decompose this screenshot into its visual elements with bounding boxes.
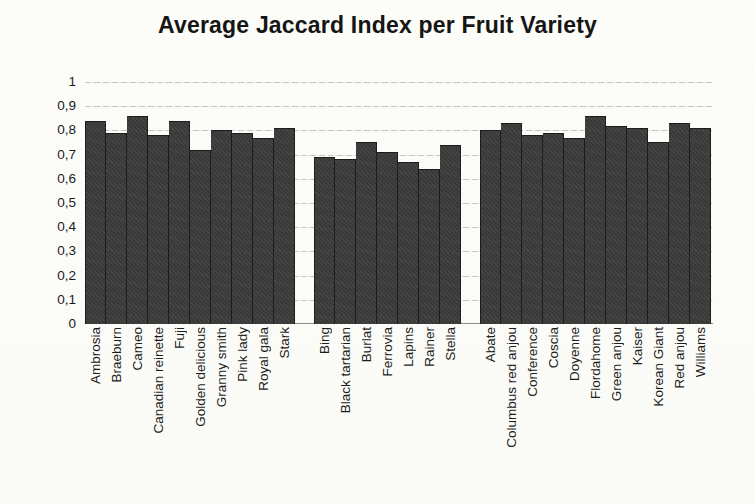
bar bbox=[85, 121, 106, 324]
bar-group bbox=[480, 116, 711, 324]
bar bbox=[232, 133, 253, 324]
bar bbox=[274, 128, 295, 324]
y-tick-label: 0,9 bbox=[16, 98, 76, 114]
x-tick-label: Cameo bbox=[127, 327, 148, 479]
x-tick-label: Lapins bbox=[398, 327, 419, 479]
x-tick-label: Bing bbox=[314, 327, 335, 479]
y-tick-label: 1 bbox=[16, 74, 76, 90]
x-tick-label: Coscia bbox=[543, 327, 564, 479]
x-tick-label: Granny smith bbox=[211, 327, 232, 479]
x-axis-labels: AmbrosiaBraeburnCameoCanadian reinetteFu… bbox=[85, 327, 711, 479]
x-label-group: BingBlack tartarianBurlatFerroviaLapinsR… bbox=[314, 327, 461, 479]
bar bbox=[377, 152, 398, 324]
x-tick-label: Conference bbox=[522, 327, 543, 479]
y-tick-label: 0,5 bbox=[16, 195, 76, 211]
x-label-group: AmbrosiaBraeburnCameoCanadian reinetteFu… bbox=[85, 327, 295, 479]
bar bbox=[106, 133, 127, 324]
bar bbox=[398, 162, 419, 324]
x-label-group: AbateColumbus red anjouConferenceCosciaD… bbox=[480, 327, 711, 479]
bar bbox=[480, 130, 501, 324]
y-tick-label: 0,6 bbox=[16, 171, 76, 187]
x-tick-label: Doyenne bbox=[564, 327, 585, 479]
bar bbox=[606, 126, 627, 324]
x-tick-label: Pink lady bbox=[232, 327, 253, 479]
bar-chart: 10,90,80,70,60,50,40,30,20,10 AmbrosiaBr… bbox=[0, 82, 755, 479]
bar bbox=[648, 142, 669, 324]
bar bbox=[543, 133, 564, 324]
x-tick-label: Stella bbox=[440, 327, 461, 479]
bar bbox=[148, 135, 169, 324]
bar bbox=[501, 123, 522, 324]
x-tick-label: Williams bbox=[690, 327, 711, 479]
bar bbox=[127, 116, 148, 324]
x-tick-label: Kaiser bbox=[627, 327, 648, 479]
plot-area bbox=[85, 82, 715, 324]
x-tick-label: Canadian reinette bbox=[148, 327, 169, 479]
x-tick-label: Flordahome bbox=[585, 327, 606, 479]
axis-corner-spacer bbox=[0, 324, 85, 479]
bar bbox=[440, 145, 461, 324]
x-tick-label: Burlat bbox=[356, 327, 377, 479]
x-tick-label: Braeburn bbox=[106, 327, 127, 479]
bar bbox=[169, 121, 190, 324]
bar bbox=[669, 123, 690, 324]
x-tick-label: Ambrosia bbox=[85, 327, 106, 479]
bar bbox=[356, 142, 377, 324]
bar bbox=[564, 138, 585, 324]
bar-series bbox=[85, 116, 711, 324]
y-tick-label: 0,7 bbox=[16, 147, 76, 163]
bar bbox=[419, 169, 440, 324]
y-tick-label: 0,1 bbox=[16, 292, 76, 308]
x-tick-label: Columbus red anjou bbox=[501, 327, 522, 479]
x-tick-label: Fuji bbox=[169, 327, 190, 479]
bar-group bbox=[85, 116, 295, 324]
y-tick-label: 0,4 bbox=[16, 219, 76, 235]
chart-title: Average Jaccard Index per Fruit Variety bbox=[0, 12, 755, 39]
gridline bbox=[85, 106, 713, 107]
bar bbox=[585, 116, 606, 324]
bar bbox=[522, 135, 543, 324]
bar bbox=[253, 138, 274, 324]
y-tick-label: 0 bbox=[16, 316, 76, 332]
scanned-chart-page: Average Jaccard Index per Fruit Variety … bbox=[0, 12, 755, 504]
y-tick-label: 0,3 bbox=[16, 243, 76, 259]
x-tick-label: Black tartarian bbox=[335, 327, 356, 479]
gridline bbox=[85, 82, 713, 83]
y-tick-label: 0,8 bbox=[16, 122, 76, 138]
y-axis: 10,90,80,70,60,50,40,30,20,10 bbox=[0, 82, 85, 324]
bar bbox=[335, 159, 356, 324]
bar bbox=[314, 157, 335, 324]
bar bbox=[690, 128, 711, 324]
x-tick-label: Ferrovia bbox=[377, 327, 398, 479]
bar bbox=[627, 128, 648, 324]
x-tick-label: Green anjou bbox=[606, 327, 627, 479]
x-tick-label: Golden delicious bbox=[190, 327, 211, 479]
x-tick-label: Royal gala bbox=[253, 327, 274, 479]
x-tick-label: Stark bbox=[274, 327, 295, 479]
bar bbox=[211, 130, 232, 324]
x-tick-label: Red anjou bbox=[669, 327, 690, 479]
bar bbox=[190, 150, 211, 324]
x-tick-label: Rainer bbox=[419, 327, 440, 479]
bar-group bbox=[314, 142, 461, 324]
x-tick-label: Korean Giant bbox=[648, 327, 669, 479]
x-tick-label: Abate bbox=[480, 327, 501, 479]
y-tick-label: 0,2 bbox=[16, 268, 76, 284]
